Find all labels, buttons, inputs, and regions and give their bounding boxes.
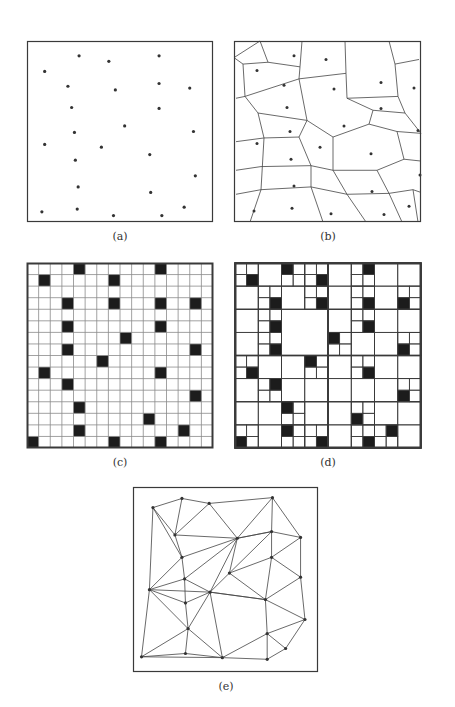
- quadtree-node: [351, 298, 363, 310]
- filled-cell: [155, 298, 167, 310]
- sample-point: [66, 85, 69, 88]
- quadtree-node: [398, 379, 410, 391]
- filled-cell: [316, 275, 328, 287]
- tin-vertex: [270, 530, 273, 533]
- quadtree-node: [328, 425, 351, 448]
- voronoi-edge: [311, 187, 323, 222]
- voronoi-edge: [389, 193, 402, 222]
- quadtree-node: [398, 332, 410, 344]
- filled-cell: [74, 425, 86, 437]
- tin-edge: [142, 629, 189, 657]
- filled-cell: [363, 367, 375, 379]
- quadtree-node: [235, 286, 258, 309]
- quadtree-node: [375, 263, 398, 286]
- voronoi-edge: [299, 67, 300, 79]
- voronoi-edge: [395, 64, 398, 96]
- voronoi-edge: [258, 113, 264, 138]
- voronoi-edge: [236, 167, 261, 171]
- tin-edge: [265, 577, 300, 599]
- voronoi-edge: [347, 96, 398, 98]
- tin-edge: [265, 600, 267, 634]
- site-point: [289, 130, 292, 133]
- tin-edge: [175, 535, 237, 538]
- site-point: [290, 158, 293, 161]
- quadtree-node: [375, 436, 387, 448]
- quadtree-node: [340, 332, 352, 344]
- caption-a: (a): [100, 230, 140, 243]
- quadtree-node: [398, 356, 421, 379]
- site-point: [333, 88, 336, 91]
- filled-cell: [190, 298, 202, 310]
- quadtree-node: [363, 402, 375, 414]
- tin-vertex: [186, 627, 189, 630]
- site-point: [283, 84, 286, 87]
- site-point: [380, 107, 383, 110]
- quadtree-node: [375, 379, 398, 402]
- site-point: [370, 152, 373, 155]
- quadtree-node: [235, 379, 258, 402]
- quadtree-node: [293, 425, 305, 437]
- sample-point: [100, 146, 103, 149]
- quadtree-node: [247, 263, 259, 275]
- tin-edge: [149, 508, 153, 590]
- tin-vertex: [299, 576, 302, 579]
- quadtree-node: [375, 356, 398, 379]
- quadtree-node: [351, 275, 363, 287]
- voronoi-edge: [258, 113, 307, 120]
- voronoi-edge: [268, 62, 300, 67]
- quadtree-node: [282, 275, 294, 287]
- tin-edge: [267, 634, 285, 649]
- filled-cell: [120, 332, 132, 344]
- quadtree-node: [247, 356, 259, 368]
- filled-cell: [305, 356, 317, 368]
- quadtree-node: [282, 379, 305, 402]
- voronoi-edge: [404, 159, 421, 161]
- site-point: [371, 190, 374, 193]
- tin-vertex: [303, 618, 306, 621]
- quadtree-node: [282, 436, 294, 448]
- site-point: [417, 129, 420, 132]
- panel-a-point-set: [27, 41, 213, 222]
- quadtree-node: [363, 309, 375, 321]
- filled-cell: [62, 379, 74, 391]
- sample-point: [77, 54, 80, 57]
- filled-cell: [398, 344, 410, 356]
- voronoi-edge: [377, 159, 404, 170]
- quadtree-node: [270, 332, 282, 344]
- quadtree-node: [258, 425, 281, 448]
- site-point: [286, 106, 289, 109]
- quadtree-node: [351, 402, 363, 414]
- quadtree-node: [409, 298, 421, 310]
- voronoi-edge: [311, 187, 347, 194]
- quadtree-node: [235, 332, 258, 355]
- site-point: [256, 142, 259, 145]
- filled-cell: [386, 425, 398, 437]
- filled-cell: [316, 436, 328, 448]
- quadtree-node: [235, 275, 247, 287]
- quadtree-node: [328, 344, 340, 356]
- tin-vertex: [221, 656, 224, 659]
- tin-vertex: [264, 598, 267, 601]
- filled-cell: [363, 436, 375, 448]
- site-point: [325, 58, 328, 61]
- voronoi-edge: [299, 137, 311, 166]
- quadtree-node: [328, 309, 351, 332]
- quadtree-node: [235, 356, 247, 368]
- voronoi-edge: [413, 190, 421, 193]
- voronoi-edge: [236, 96, 245, 98]
- quadtree-node: [305, 367, 317, 379]
- sample-point: [112, 214, 115, 217]
- tin-edge: [149, 590, 210, 592]
- quadtree-node: [409, 286, 421, 298]
- tin-vertex: [148, 588, 151, 591]
- voronoi-edge: [245, 96, 258, 113]
- filled-cell: [247, 275, 259, 287]
- tin-edge: [185, 579, 210, 592]
- tin-edge: [229, 557, 271, 573]
- quadtree-node: [351, 286, 363, 298]
- voronoi-edge: [397, 132, 404, 160]
- quadtree-node: [351, 309, 363, 321]
- quadtree-node: [270, 390, 282, 402]
- voronoi-edge: [300, 41, 302, 67]
- filled-cell: [270, 344, 282, 356]
